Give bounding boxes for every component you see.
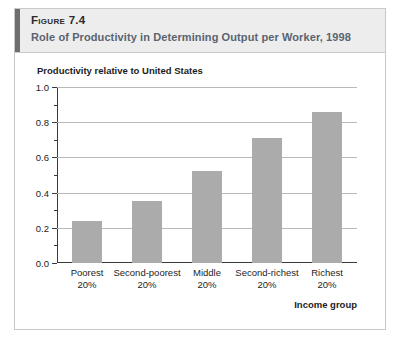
figure-title: Role of Productivity in Determining Outp… xyxy=(31,31,351,43)
y-tick-label: 0.2 xyxy=(36,222,49,233)
figure-header: Figure 7.4 Role of Productivity in Deter… xyxy=(15,9,385,53)
x-axis-labels: Poorest20%Second-poorest20%Middle20%Seco… xyxy=(57,267,357,301)
figure-container: Figure 7.4 Role of Productivity in Deter… xyxy=(14,8,386,330)
y-tick-label: 0.6 xyxy=(36,152,49,163)
x-axis-title: Income group xyxy=(294,299,357,310)
bar xyxy=(312,112,342,263)
y-tick-label: 0.8 xyxy=(36,117,49,128)
bar xyxy=(252,138,282,263)
y-tick-major xyxy=(52,263,57,264)
bar xyxy=(72,221,102,263)
figure-number: Figure 7.4 xyxy=(31,14,86,26)
bar xyxy=(192,171,222,263)
figure-screenshot: Figure 7.4 Role of Productivity in Deter… xyxy=(0,0,410,352)
bar-series xyxy=(57,87,357,263)
y-axis-title: Productivity relative to United States xyxy=(37,65,203,76)
bar xyxy=(132,201,162,263)
chart-area: Productivity relative to United States 0… xyxy=(15,53,385,329)
x-tick-label: Richest20% xyxy=(285,267,369,291)
header-accent-bar xyxy=(15,9,20,52)
y-tick-label: 1.0 xyxy=(36,82,49,93)
y-tick-label: 0.4 xyxy=(36,187,49,198)
plot-region: 0.00.20.40.60.81.0 xyxy=(57,87,357,263)
